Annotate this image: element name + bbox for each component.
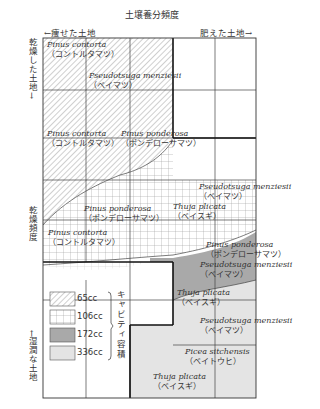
- region-label: Pseudotsuga menziesii（ベイマツ）: [199, 182, 291, 202]
- region-label: Thuja plicata（ベイスギ）: [153, 372, 206, 392]
- region-label: Pseudotsuga menziesii（ベイマツ）: [200, 260, 292, 280]
- legend-label-65cc: 65cc: [77, 293, 97, 303]
- region-label: Pinus ponderosa（ポンデローサマツ）: [121, 129, 201, 149]
- region-label: Pinus ponderosa（ポンデローサマツ）: [206, 240, 286, 260]
- legend-label-172cc: 172cc: [77, 329, 103, 339]
- region-label: Pseudotsuga menziesii（ベイマツ）: [89, 71, 181, 91]
- legend-label-106cc: 106cc: [77, 311, 103, 321]
- region-label: Pinus contorta（コントルタマツ）: [47, 40, 119, 60]
- region-label: Picea sitchensis（ベイトウヒ）: [185, 347, 250, 367]
- region-label: Pinus contorta（コントルタマツ）: [48, 228, 120, 248]
- region-label: Thuja plicata（ベイスギ）: [173, 202, 226, 222]
- region-label: Pinus contorta（コントルタマツ）: [47, 129, 119, 149]
- region-label: Pseudotsuga menziesii（ベイマツ）: [200, 316, 292, 336]
- region-label: Thuja plicata（ベイスギ）: [177, 288, 230, 308]
- legend-title: キャビティ容積: [114, 290, 126, 360]
- legend-label-336cc: 336cc: [77, 347, 103, 357]
- region-label: Pinus ponderosa（ポンデローサマツ）: [84, 204, 164, 224]
